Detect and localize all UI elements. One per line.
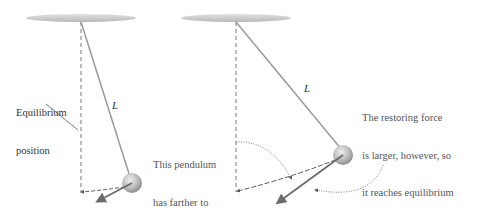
right-ceiling <box>181 14 291 22</box>
left-length-label: L <box>112 99 118 111</box>
right-return-path <box>238 157 342 191</box>
right-length-label: L <box>304 82 310 94</box>
left-note: This pendulum has farther to go to reach… <box>153 134 216 214</box>
left-note-pointer <box>236 142 291 178</box>
right-string <box>236 22 342 150</box>
right-note: The restoring force is larger, however, … <box>362 87 454 214</box>
left-string <box>81 22 131 180</box>
left-ceiling <box>26 14 136 22</box>
equilibrium-label: Equilibrium position <box>16 82 67 170</box>
right-force-arrow <box>280 155 343 201</box>
